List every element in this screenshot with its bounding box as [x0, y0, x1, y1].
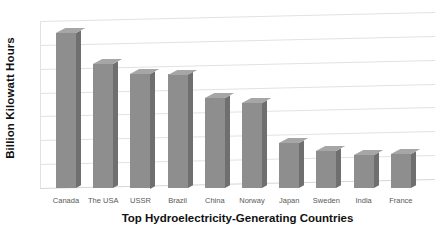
bar[interactable]: [205, 98, 225, 188]
bar-top-face: [279, 138, 308, 143]
x-axis-tick-label: Norway: [233, 197, 271, 205]
bar-side-face: [262, 100, 267, 188]
bar[interactable]: [279, 143, 299, 188]
bar-side-face: [336, 149, 341, 188]
bar[interactable]: [391, 154, 411, 188]
x-axis-tick-label: The USA: [84, 197, 122, 205]
bar[interactable]: [242, 103, 262, 188]
x-axis-tick-label: Sweden: [307, 197, 345, 205]
x-axis-tick-label: India: [345, 197, 383, 205]
bar[interactable]: [354, 155, 374, 188]
bar[interactable]: [316, 151, 336, 188]
bar-series: [40, 10, 435, 196]
x-axis-tick-label: France: [382, 197, 420, 205]
bar-front-face: [168, 74, 188, 188]
x-axis-tick-label: USSR: [121, 197, 159, 205]
plot-area: 050100150200250300350: [40, 10, 435, 196]
bar-top-face: [316, 146, 345, 151]
bar-side-face: [411, 151, 416, 188]
bar-front-face: [205, 98, 225, 188]
x-axis-tick-label: Japan: [270, 197, 308, 205]
bar-front-face: [391, 154, 411, 188]
x-axis-title: Top Hydroelectricity-Generating Countrie…: [40, 213, 435, 225]
x-axis-tick-label: Brazil: [159, 197, 197, 205]
bar-front-face: [354, 155, 374, 188]
bar-side-face: [225, 96, 230, 188]
bar-front-face: [279, 143, 299, 188]
y-axis-title-text: Billion Kilowatt Hours: [4, 37, 16, 159]
bar[interactable]: [130, 74, 150, 189]
bar-front-face: [93, 64, 113, 188]
x-axis-tick-labels: CanadaThe USAUSSRBrazilChinaNorwayJapanS…: [40, 197, 435, 211]
bar[interactable]: [93, 64, 113, 188]
bar[interactable]: [56, 33, 76, 188]
x-axis-title-text: Top Hydroelectricity-Generating Countrie…: [122, 212, 354, 224]
bar-side-face: [76, 30, 81, 188]
bar-side-face: [299, 140, 304, 188]
bar-side-face: [188, 72, 193, 188]
bar-front-face: [56, 33, 76, 188]
bar-side-face: [113, 61, 118, 188]
bar-side-face: [150, 71, 155, 188]
bar-top-face: [93, 59, 122, 64]
bar-front-face: [316, 151, 336, 188]
x-axis-tick-label: Canada: [47, 197, 85, 205]
x-axis-tick-label: China: [196, 197, 234, 205]
bar-front-face: [130, 74, 150, 189]
y-axis-title: Billion Kilowatt Hours: [0, 0, 20, 196]
bar-side-face: [374, 152, 379, 188]
bar-front-face: [242, 103, 262, 188]
bar-top-face: [130, 69, 159, 74]
bar[interactable]: [168, 74, 188, 188]
bar-chart: Billion Kilowatt Hours 05010015020025030…: [0, 0, 442, 231]
